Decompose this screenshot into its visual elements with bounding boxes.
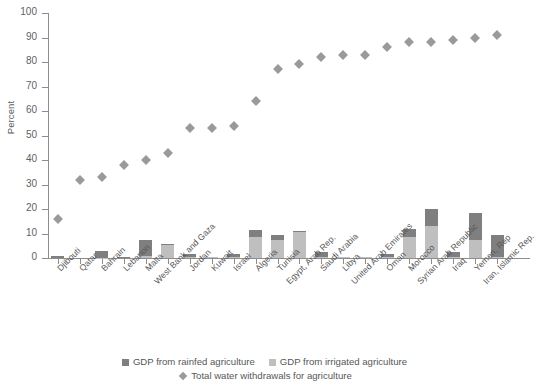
y-tick-label: 30 — [26, 178, 42, 189]
y-tick-0: 0 — [42, 258, 48, 259]
diamond-marker-icon — [492, 30, 502, 40]
diamond-marker-icon — [53, 214, 63, 224]
diamond-marker-icon — [426, 37, 436, 47]
diamond-marker-icon — [97, 172, 107, 182]
diamond-marker-icon — [273, 64, 283, 74]
diamond-marker-icon — [141, 155, 151, 165]
legend-label-rainfed: GDP from rainfed agriculture — [133, 355, 255, 369]
legend-item-irrigated: GDP from irrigated agriculture — [269, 355, 407, 369]
y-axis-title: Percent — [5, 78, 16, 158]
plot-area — [48, 13, 529, 258]
bar-segment-irrigated — [469, 240, 482, 258]
y-tick-label: 60 — [26, 104, 42, 115]
y-tick-label: 90 — [26, 31, 42, 42]
legend-label-irrigated: GDP from irrigated agriculture — [280, 355, 407, 369]
y-tick-label: 50 — [26, 129, 42, 140]
legend-label-water-withdrawals: Total water withdrawals for agriculture — [191, 369, 352, 383]
diamond-marker-icon — [404, 37, 414, 47]
diamond-marker-icon — [382, 42, 392, 52]
y-tick-label: 20 — [26, 202, 42, 213]
diamond-marker-swatch-icon — [179, 372, 187, 380]
diamond-marker-icon — [251, 96, 261, 106]
y-tick-label: 10 — [26, 227, 42, 238]
diamond-marker-icon — [185, 123, 195, 133]
diamond-marker-icon — [119, 160, 129, 170]
y-tick-label: 0 — [31, 251, 42, 262]
diamond-marker-icon — [295, 59, 305, 69]
chart-figure: Percent 0102030405060708090100 DjiboutiQ… — [0, 0, 537, 388]
legend-item-water-withdrawals: Total water withdrawals for agriculture — [179, 369, 352, 383]
light-square-swatch-icon — [269, 359, 276, 366]
diamond-marker-icon — [229, 121, 239, 131]
diamond-marker-icon — [470, 33, 480, 43]
y-tick-label: 40 — [26, 153, 42, 164]
chart-legend: GDP from rainfed agriculture GDP from ir… — [0, 355, 537, 383]
diamond-marker-icon — [163, 148, 173, 158]
diamond-marker-icon — [338, 50, 348, 60]
bar-algeria — [249, 230, 262, 258]
y-tick-label: 80 — [26, 55, 42, 66]
legend-item-rainfed: GDP from rainfed agriculture — [122, 355, 255, 369]
dark-square-swatch-icon — [122, 359, 129, 366]
bar-segment-rainfed — [249, 230, 262, 237]
diamond-marker-icon — [360, 50, 370, 60]
y-tick-label: 70 — [26, 80, 42, 91]
diamond-marker-icon — [75, 175, 85, 185]
diamond-marker-icon — [207, 123, 217, 133]
y-tick-mark — [42, 258, 48, 259]
diamond-marker-icon — [316, 52, 326, 62]
y-tick-label: 100 — [20, 6, 42, 17]
diamond-marker-icon — [448, 35, 458, 45]
bar-segment-rainfed — [425, 209, 438, 226]
